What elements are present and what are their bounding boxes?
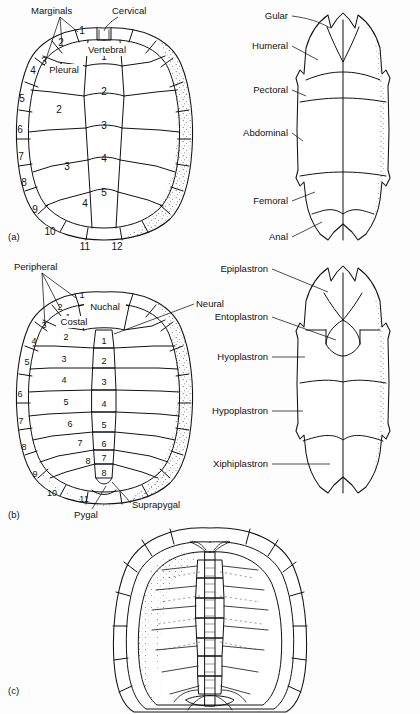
neural-number-8: 8 [101,468,106,478]
neural-number-3: 3 [101,377,106,387]
peripheral-number-1: 1 [79,290,84,300]
peripheral-number-6: 6 [17,389,22,399]
label-epiplastron: Epiplastron [220,263,268,274]
panel-marker-c: (c) [8,685,19,696]
peripheral-number-2: 2 [57,302,62,312]
peripheral-number-4: 4 [31,336,36,346]
marginal-number-6: 6 [17,124,23,135]
label-suprapygal: Suprapygal [132,499,180,510]
peripheral-number-9: 9 [32,469,37,479]
marginal-number-7: 7 [18,151,24,162]
label-costal: Costal [61,316,88,327]
neural-number-6: 6 [101,439,106,449]
costal-number-6: 6 [67,419,72,429]
vertebral-number-2: 2 [101,86,107,97]
marginal-number-11: 11 [80,241,91,252]
panel-marker-a: (a) [8,231,20,242]
label-hypoplastron: Hypoplastron [212,405,268,416]
label-hyoplastron: Hyoplastron [217,351,268,362]
label-vertebral: Vertebral [88,44,126,55]
panel-marker-b: (b) [8,509,20,520]
label-nuchal: Nuchal [90,301,120,312]
label-anal: Anal [269,231,288,242]
marginal-number-1: 1 [79,25,85,36]
marginal-number-9: 9 [32,204,38,215]
neural-number-2: 2 [101,356,106,366]
peripheral-number-8: 8 [21,442,26,452]
marginal-number-12: 12 [111,241,123,252]
neural-number-4: 4 [101,399,106,409]
neural-number-7: 7 [101,453,106,463]
pleural-number-2: 2 [56,104,62,115]
peripheral-number-5: 5 [24,357,29,367]
pleural-number-3: 3 [64,161,70,172]
costal-number-2: 2 [63,332,68,342]
costal-number-5: 5 [63,397,68,407]
label-marginals: Marginals [31,5,72,16]
costal-number-8: 8 [85,456,90,466]
marginal-number-5: 5 [19,93,25,104]
peripheral-number-10: 10 [47,488,57,498]
label-cervical: Cervical [112,5,146,16]
costal-number-3: 3 [61,354,66,364]
figure-turtle-shell-anatomy: 1 2 3 4 5 1 2 3 4 1 2 3 4 5 6 7 8 9 10 1… [0,0,420,714]
peripheral-number-3: 3 [41,320,46,330]
marginal-number-4: 4 [30,65,36,76]
label-pygal: Pygal [74,509,98,520]
label-gular: Gular [265,10,288,21]
label-neural: Neural [196,298,224,309]
costal-number-4: 4 [61,375,66,385]
peripheral-number-11: 11 [79,494,88,504]
vertebral-number-4: 4 [101,153,107,164]
costal-number-7: 7 [77,438,82,448]
vertebral-number-3: 3 [101,120,107,131]
marginal-number-8: 8 [21,177,27,188]
label-femoral: Femoral [253,195,288,206]
neural-number-5: 5 [101,420,106,430]
label-entoplastron: Entoplastron [215,311,268,322]
label-xiphiplastron: Xiphiplastron [213,458,268,469]
vertebral-number-5: 5 [101,187,107,198]
label-peripheral: Peripheral [14,261,57,272]
neural-number-1: 1 [101,336,106,346]
pleural-number-4: 4 [82,198,88,209]
label-pectoral: Pectoral [253,84,288,95]
peripheral-number-7: 7 [18,416,23,426]
label-abdominal: Abdominal [243,127,288,138]
label-humeral: Humeral [252,40,288,51]
marginal-number-10: 10 [44,226,56,237]
label-pleural: Pleural [49,64,79,75]
